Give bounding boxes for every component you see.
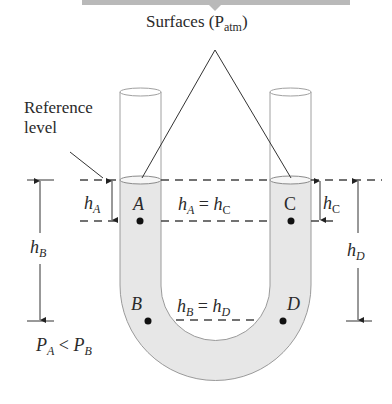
u-tube-diagram: Surfaces (Patm) Reference level	[0, 0, 392, 404]
point-c-dot	[288, 218, 295, 225]
ha-label: hA	[84, 193, 101, 216]
banner-pointer-icon	[209, 5, 221, 11]
pressure-inequality: PA < PB	[35, 335, 93, 358]
point-c-label: C	[284, 194, 296, 214]
point-d-dot	[280, 318, 287, 325]
surfaces-label: Surfaces (Patm)	[146, 12, 248, 34]
reference-level-label-line1: Reference	[24, 98, 93, 117]
point-d-label: D	[286, 294, 300, 314]
equation-ha-hc: hA = hC	[178, 194, 231, 217]
point-b-dot	[145, 318, 152, 325]
reference-level-label-line2: level	[24, 118, 57, 137]
point-a-label: A	[132, 194, 145, 214]
point-a-dot	[137, 218, 144, 225]
equation-hb-hd: hB = hD	[177, 296, 231, 319]
hd-label: hD	[347, 240, 365, 263]
hb-label: hB	[30, 237, 47, 260]
surfaces-pointer-lines	[70, 50, 291, 178]
hc-label: hC	[323, 193, 340, 216]
surface-left	[120, 176, 161, 184]
point-b-label: B	[131, 294, 142, 314]
top-banner-bar	[82, 0, 350, 11]
